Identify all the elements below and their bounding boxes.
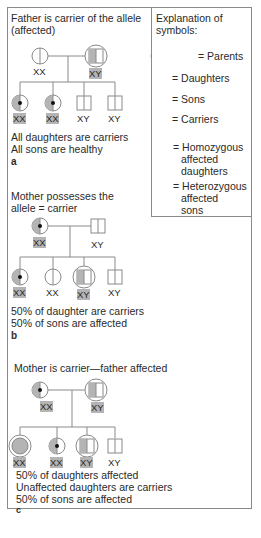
panel-a-title-line2: (affected) [11,24,55,36]
panel-b-child4-genotype: XY [108,288,121,298]
panel-b-summary-line1: 50% of daughter are carriers [11,305,144,317]
panel-a-father-symbol [85,45,107,67]
legend-heterozygous-line2: affected [181,192,218,204]
panel-c-child4-genotype: XY [108,458,121,468]
legend-homozygous-line2: affected [181,153,218,165]
panel-a-letter: a [11,156,17,167]
legend-homozygous-line1: = Homozygous [173,141,243,153]
panel-c-letter: c [16,505,21,515]
legend-homozygous-line3: daughters [181,165,228,177]
panel-a-child1-genotype: XX [13,114,26,124]
panel-a-summary-line2: All sons are healthy [11,143,103,155]
legend-parents-label: = Parents [198,50,243,62]
legend-heterozygous-line1: = Heterozygous [173,180,247,192]
legend-title-line2: symbols: [156,24,197,36]
panel-a-mother-symbol [32,48,48,64]
legend-title-line1: Explanation of [156,12,223,24]
panel-c-summary-line2: Unaffected daughters are carriers [16,481,172,493]
panel-b-child3-genotype: XY [77,290,90,300]
panel-a-mother-genotype: XX [33,67,46,77]
panel-c-child2-genotype: XX [50,458,63,468]
panel-c-summary-line1: 50% of daughters affected [16,469,138,481]
panel-c-father-genotype: XY [91,403,104,413]
panel-b-summary-line2: 50% of sons are affected [11,317,127,329]
panel-c-summary-line3: 50% of sons are affected [16,493,132,505]
panel-a-summary-line1: All daughters are carriers [11,131,128,143]
panel-c-child3-genotype: XY [80,458,93,468]
panel-a-child2-genotype: XX [46,114,59,124]
panel-b-letter: b [11,330,17,341]
panel-b-father-genotype: XY [91,240,104,250]
panel-a-child3-genotype: XY [77,114,90,124]
panel-b-title-line1: Mother possesses the [11,190,114,202]
panel-c-mother-genotype: XX [40,402,53,412]
legend-sons-label: = Sons [172,93,205,105]
panel-b-mother-genotype: XX [33,238,46,248]
panel-b-child1-genotype: XX [13,288,26,298]
legend-daughters-label: = Daughters [172,72,230,84]
legend-carriers-label: = Carriers [172,113,218,125]
panel-b-title-line2: allele = carrier [11,202,77,214]
panel-c-title-line1: Mother is carrier—father affected [14,362,167,374]
panel-c-child1-genotype: XX [13,458,26,468]
panel-a-father-genotype: XY [89,69,102,79]
legend-heterozygous-line3: sons [181,204,203,216]
panel-b-child2-genotype: XX [46,288,59,298]
panel-a-child4-genotype: XY [108,114,121,124]
panel-a-title-line1: Father is carrier of the allele [11,12,141,24]
